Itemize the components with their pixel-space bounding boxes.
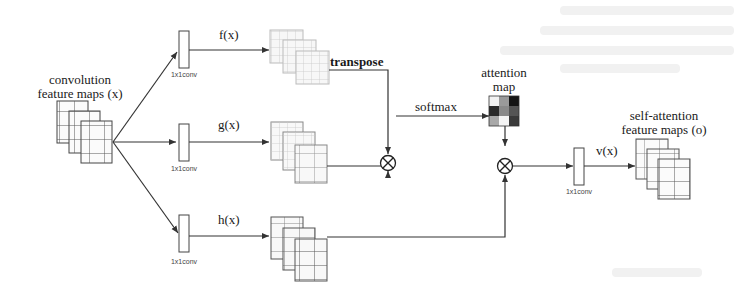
attention-map-grid [489, 96, 519, 126]
softmax-label: softmax [415, 100, 457, 114]
attention-cell [499, 106, 509, 116]
transpose-arrow [329, 70, 388, 154]
attention-cell [509, 106, 519, 116]
transpose-label: transpose [330, 55, 383, 69]
h-label: h(x) [218, 213, 240, 227]
arrow-to-h-conv [113, 142, 178, 233]
conv-h-label: 1x1conv [171, 258, 197, 265]
arrow-to-f-conv [113, 52, 177, 142]
attention-cell [499, 116, 509, 126]
attention-title-line2: map [493, 80, 515, 94]
g-feature-maps-stack [271, 122, 327, 183]
attention-cell [489, 106, 499, 116]
conv-f-label: 1x1conv [171, 71, 197, 78]
h-to-multiply-arrow [327, 175, 505, 237]
input-title-line2: feature maps (x) [37, 87, 122, 101]
multiply-bottom-operator [498, 159, 513, 174]
attention-cell [489, 116, 499, 126]
conv-g-label: 1x1conv [171, 165, 197, 172]
h-feature-maps-stack [271, 217, 327, 281]
output-feature-maps-stack [636, 139, 690, 199]
attention-cell [509, 96, 519, 106]
conv-g-box [179, 124, 189, 161]
f-label: f(x) [219, 28, 239, 42]
conv-h-box [179, 215, 189, 252]
attention-cell [509, 116, 519, 126]
output-title-line1: self-attention [630, 109, 699, 123]
input-title-line1: convolution [49, 73, 111, 87]
v-label: v(x) [596, 144, 618, 158]
conv-f-box [179, 31, 189, 68]
g-label: g(x) [218, 118, 240, 132]
attention-cell [499, 96, 509, 106]
conv-v-box [574, 148, 584, 185]
self-attention-diagram [0, 0, 734, 298]
g-to-multiply-line [327, 166, 388, 171]
input-feature-maps-stack [57, 101, 112, 163]
attention-cell [489, 96, 499, 106]
f-feature-maps-stack [270, 30, 329, 84]
attention-title-line1: attention [481, 66, 527, 80]
conv-v-label: 1x1conv [566, 188, 592, 195]
output-title-line2: feature maps (o) [621, 123, 706, 137]
multiply-top-operator [381, 156, 396, 171]
